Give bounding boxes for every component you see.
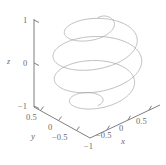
- y-tick-label-neg0p5: −0.5: [52, 133, 67, 142]
- helix-path: [53, 16, 142, 109]
- z-axis-title: z: [7, 58, 10, 66]
- x-tick-label-neg0p5: −0.5: [96, 131, 111, 140]
- x-tick-label-0p5: 0.5: [136, 117, 147, 126]
- y-tick-label-0: 0: [48, 123, 52, 132]
- y-axis-title: y: [31, 132, 35, 141]
- z-tick-label-neg1: −1: [18, 102, 27, 111]
- z-tick-label-1: 1: [23, 16, 27, 25]
- y-tick-label-neg1: −1: [84, 142, 93, 151]
- x-axis-title: x: [121, 137, 125, 146]
- helix-3d-plot-figure: 1 0 −1 z 0.5 0 −0.5 −1 y −0.5 0 0.5 x: [0, 0, 166, 165]
- y-axis-ticks: [41, 107, 80, 131]
- x-tick-label-0: 0: [119, 124, 123, 133]
- y-tick-label-0p5: 0.5: [26, 113, 37, 122]
- helix-curve: [53, 16, 142, 109]
- z-axis-ticks: [34, 20, 39, 109]
- z-tick-label-0: 0: [23, 59, 27, 68]
